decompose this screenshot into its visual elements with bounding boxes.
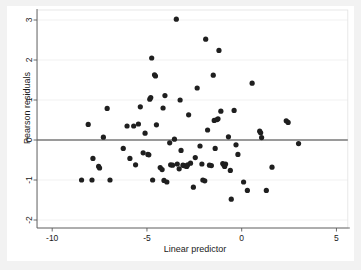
data-point: [127, 156, 132, 161]
data-point: [124, 123, 129, 128]
data-point: [138, 104, 143, 109]
data-point: [177, 166, 182, 171]
data-point: [296, 141, 301, 146]
data-point: [154, 122, 159, 127]
data-point: [213, 146, 218, 151]
data-point: [178, 97, 183, 102]
data-point: [167, 140, 172, 145]
data-point: [86, 122, 91, 127]
data-point: [79, 177, 84, 182]
data-point: [160, 167, 165, 172]
data-point: [160, 105, 165, 110]
data-point: [199, 161, 204, 166]
data-point: [107, 177, 112, 182]
x-tick-label: 0: [239, 233, 244, 243]
y-tick-label: 3: [24, 17, 34, 22]
data-point: [226, 134, 231, 139]
data-point: [216, 48, 221, 53]
y-tick-label: 2: [24, 57, 34, 62]
data-point: [235, 152, 240, 157]
data-point: [172, 137, 177, 142]
data-point: [245, 188, 250, 193]
data-point: [241, 179, 246, 184]
data-point: [203, 37, 208, 42]
data-point: [105, 106, 110, 111]
data-point: [175, 161, 180, 166]
data-point: [148, 95, 153, 100]
data-point: [89, 177, 94, 182]
data-point: [146, 152, 151, 157]
data-point: [170, 163, 175, 168]
data-point: [218, 109, 223, 114]
data-point: [101, 135, 106, 140]
data-point: [233, 142, 238, 147]
data-point: [188, 161, 193, 166]
data-point: [258, 130, 263, 135]
data-point: [142, 131, 147, 136]
scatter-plot: -10-505 -2-10123 Linear predictor Pearso…: [0, 0, 361, 270]
data-point: [174, 17, 179, 22]
x-axis-tick-labels: -10-505: [46, 228, 339, 243]
data-point: [164, 179, 169, 184]
data-point: [141, 150, 146, 155]
x-tick-label: -10: [46, 233, 59, 243]
data-point: [202, 178, 207, 183]
data-point: [136, 121, 141, 126]
data-point: [209, 163, 214, 168]
data-point: [153, 73, 158, 78]
data-point: [193, 155, 198, 160]
data-point: [191, 185, 196, 190]
data-point: [121, 146, 126, 151]
data-point: [97, 165, 102, 170]
data-point: [264, 188, 269, 193]
data-point: [150, 177, 155, 182]
data-point: [90, 156, 95, 161]
x-axis-title: Linear predictor: [164, 244, 227, 254]
data-point: [223, 161, 228, 166]
data-point: [162, 93, 167, 98]
y-tick-label: -2: [24, 216, 34, 224]
x-tick-label: 5: [334, 233, 339, 243]
x-tick-label: -5: [143, 233, 151, 243]
data-point: [186, 112, 191, 117]
y-axis-title: Pearson residuals: [22, 71, 32, 144]
data-point: [286, 120, 291, 125]
data-point: [215, 116, 220, 121]
data-point: [197, 143, 202, 148]
data-point: [228, 168, 233, 173]
data-point: [250, 81, 255, 86]
data-point: [211, 73, 216, 78]
data-point: [205, 127, 210, 132]
data-point: [131, 123, 136, 128]
plot-background: [37, 10, 348, 228]
y-tick-label: -1: [24, 176, 34, 184]
data-point: [232, 108, 237, 113]
data-point: [195, 85, 200, 90]
data-point: [133, 162, 138, 167]
data-point: [229, 197, 234, 202]
figure-canvas: -10-505 -2-10123 Linear predictor Pearso…: [0, 0, 361, 270]
data-point: [259, 135, 264, 140]
data-point: [269, 165, 274, 170]
data-point: [178, 148, 183, 153]
data-point: [149, 55, 154, 60]
